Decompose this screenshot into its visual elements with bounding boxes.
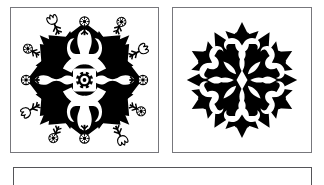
panel-left-caption — [11, 8, 12, 9]
panel-right-caption — [173, 8, 174, 9]
eight-pointed-star-body — [21, 17, 148, 144]
pattern-plate — [0, 0, 324, 185]
eight-point-snowflake-with-tulip-and-daisy-border-figure — [11, 8, 158, 152]
blank-caption-panel — [13, 167, 312, 185]
center-daisy-rosette — [74, 70, 94, 90]
papercut-panel-left — [10, 7, 159, 153]
six-point-snowflake-with-petal-rosette-core-figure — [173, 8, 311, 152]
panel-bottom-caption — [14, 168, 15, 169]
papercut-panel-right — [172, 7, 312, 153]
